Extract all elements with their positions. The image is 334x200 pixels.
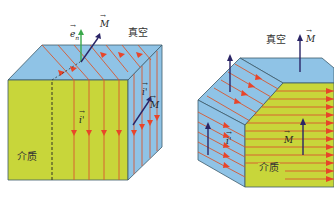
right-magnetization-top-label: M bbox=[306, 35, 315, 44]
normal-vector-subscript: n bbox=[75, 34, 79, 41]
right-magnetization-front-label: M bbox=[284, 136, 293, 145]
right-current-side-label: i' bbox=[226, 137, 231, 146]
magnetization-top-label: M bbox=[100, 20, 109, 29]
medium-label-right: 介质 bbox=[258, 163, 280, 173]
vacuum-label-right: 真空 bbox=[266, 35, 286, 45]
left-front-face bbox=[8, 80, 128, 180]
vacuum-label-left: 真空 bbox=[128, 28, 148, 38]
medium-label-left: 介质 bbox=[17, 152, 37, 162]
right-magnetization-slant-arrowhead bbox=[227, 54, 233, 61]
right-magnetization-top-arrowhead bbox=[297, 34, 303, 41]
normal-vector-label: en bbox=[70, 30, 79, 41]
current-front-label: i' bbox=[79, 116, 84, 125]
magnetization-side-label: M bbox=[150, 101, 159, 110]
diagram-canvas bbox=[0, 0, 334, 200]
current-side-label: i' bbox=[142, 88, 147, 97]
